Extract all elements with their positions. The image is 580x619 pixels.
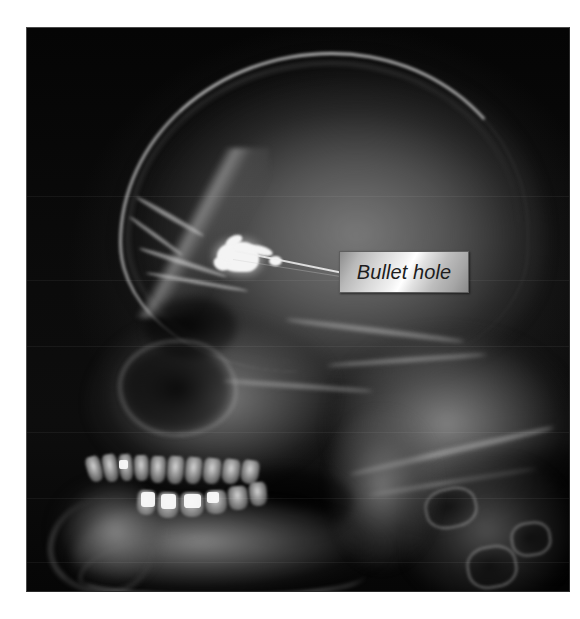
film-artefact-line [27, 562, 569, 563]
bullet-hole-callout[interactable]: Bullet hole [339, 251, 469, 293]
dental-restoration [161, 494, 176, 509]
maxillary-sinus-rim [119, 340, 237, 436]
tooth [150, 456, 167, 484]
tooth [248, 481, 268, 506]
dental-restoration [119, 460, 128, 469]
dental-restoration [184, 494, 201, 508]
page-root: Bullet hole [0, 0, 580, 619]
frontal-bone [119, 148, 269, 318]
tooth [134, 455, 150, 482]
tooth [220, 458, 241, 485]
film-artefact-line [27, 346, 569, 347]
film-artefact-line [27, 280, 569, 281]
film-artefact-line [27, 498, 569, 499]
tooth [184, 456, 204, 485]
figure-caption [27, 600, 547, 612]
tooth [166, 455, 185, 484]
tooth [101, 453, 121, 483]
dental-restoration [141, 492, 155, 507]
dental-arch [83, 452, 293, 538]
callout-label-text: Bullet hole [357, 262, 452, 282]
tooth [201, 457, 222, 485]
film-artefact-line [27, 196, 569, 197]
xray-image: Bullet hole [26, 27, 570, 592]
film-artefact-line [27, 432, 569, 433]
